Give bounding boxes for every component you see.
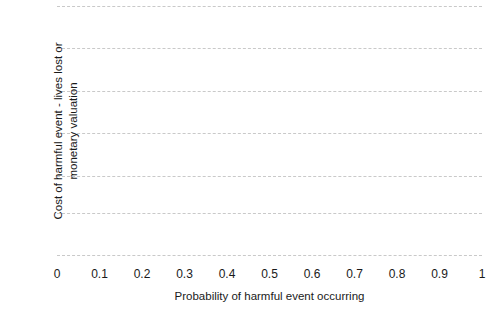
gridline-1 — [57, 48, 482, 49]
x-tick-label-8: 0.8 — [389, 267, 406, 281]
y-axis-title-line-2: monetary valuation — [66, 82, 81, 179]
x-tick-label-9: 0.9 — [431, 267, 448, 281]
x-tick-label-1: 0.1 — [91, 267, 108, 281]
gridline-6 — [57, 255, 482, 256]
x-tick-label-7: 0.7 — [346, 267, 363, 281]
chart-figure: Cost of harmful event - lives lost or mo… — [0, 0, 494, 321]
x-tick-label-0: 0 — [54, 267, 61, 281]
x-tick-label-10: 1 — [479, 267, 486, 281]
x-tick-label-4: 0.4 — [219, 267, 236, 281]
x-tick-label-3: 0.3 — [176, 267, 193, 281]
plot-area — [57, 0, 482, 262]
x-tick-label-6: 0.6 — [304, 267, 321, 281]
gridline-4 — [57, 176, 482, 177]
x-axis-tick-labels: 00.10.20.30.40.50.60.70.80.91 — [57, 267, 482, 283]
x-axis-title: Probability of harmful event occurring — [57, 290, 482, 302]
x-tick-label-2: 0.2 — [134, 267, 151, 281]
y-axis-title-line-1: Cost of harmful event - lives lost or — [51, 42, 66, 219]
y-axis-title: Cost of harmful event - lives lost or mo… — [44, 0, 88, 262]
gridline-2 — [57, 91, 482, 92]
gridline-0 — [57, 6, 482, 7]
gridline-3 — [57, 133, 482, 134]
gridline-5 — [57, 213, 482, 214]
x-tick-label-5: 0.5 — [261, 267, 278, 281]
